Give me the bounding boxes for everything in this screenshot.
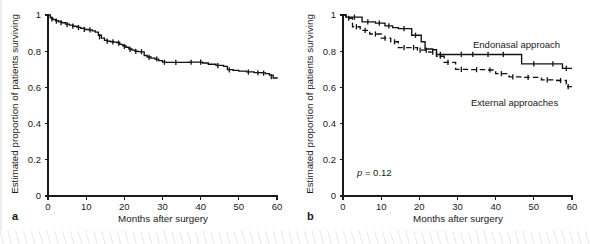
panel-b-x-axis-title: Months after surgery <box>413 213 503 224</box>
x-tick-label: 40 <box>195 201 206 212</box>
y-tick-label: 0.4 <box>28 118 41 129</box>
y-tick-label: 0 <box>36 190 41 201</box>
y-tick-label: 1 <box>331 9 336 20</box>
y-tick-label: 0.8 <box>323 46 336 57</box>
panel-b-y-axis-title: Estimated proportion of patients survivi… <box>304 14 315 194</box>
panel-a-y-axis-title: Estimated proportion of patients survivi… <box>9 14 20 194</box>
x-tick-label: 10 <box>81 201 92 212</box>
x-tick-label: 20 <box>414 201 425 212</box>
p-value-number: = 0.12 <box>362 167 391 178</box>
external-approaches-label: External approaches <box>471 97 558 108</box>
y-tick-label: 0.8 <box>28 46 41 57</box>
panel-a-curves <box>48 15 277 79</box>
x-tick-label: 0 <box>45 201 50 212</box>
panel-a-tick-labels: 00.20.40.60.810102030405060 <box>28 9 283 212</box>
x-tick-label: 50 <box>529 201 540 212</box>
panel-b-letter: b <box>307 210 314 222</box>
panel-a-plot: 00.20.40.60.810102030405060 Months after… <box>0 0 295 244</box>
survival-curve <box>343 15 572 87</box>
x-tick-label: 30 <box>157 201 168 212</box>
figure-survival-curves: 00.20.40.60.810102030405060 Months after… <box>0 0 590 244</box>
y-tick-label: 0.6 <box>28 82 41 93</box>
panel-b: 00.20.40.60.810102030405060 Months after… <box>295 0 590 244</box>
x-tick-label: 10 <box>376 201 387 212</box>
y-tick-label: 0.4 <box>323 118 336 129</box>
panel-b-plot: 00.20.40.60.810102030405060 Months after… <box>295 0 590 244</box>
y-tick-label: 0 <box>331 190 336 201</box>
y-tick-label: 0.2 <box>28 154 41 165</box>
survival-curve <box>48 15 277 79</box>
x-tick-label: 50 <box>234 201 245 212</box>
panel-a-letter: a <box>12 210 19 222</box>
panel-a-x-axis-title: Months after surgery <box>118 213 208 224</box>
x-tick-label: 40 <box>490 201 501 212</box>
endonasal-approach-label: Endonasal approach <box>473 39 560 50</box>
y-tick-label: 1 <box>36 9 41 20</box>
x-tick-label: 60 <box>567 201 578 212</box>
x-tick-label: 60 <box>272 201 283 212</box>
y-tick-label: 0.2 <box>323 154 336 165</box>
panel-b-curves <box>343 15 572 90</box>
x-tick-label: 30 <box>452 201 463 212</box>
panel-a-axes <box>45 14 279 200</box>
x-tick-label: 20 <box>119 201 130 212</box>
y-tick-label: 0.6 <box>323 82 336 93</box>
x-tick-label: 0 <box>340 201 345 212</box>
panel-a: 00.20.40.60.810102030405060 Months after… <box>0 0 295 244</box>
p-value-annotation: p = 0.12 <box>356 167 392 178</box>
